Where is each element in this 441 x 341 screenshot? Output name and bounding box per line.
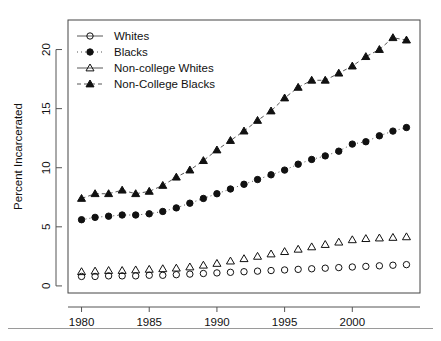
data-point — [240, 255, 248, 262]
legend-item-whites: Whites — [77, 30, 149, 42]
footer-divider — [8, 328, 433, 329]
data-point — [308, 76, 316, 83]
data-point — [187, 200, 193, 206]
data-point — [214, 191, 220, 197]
data-point — [241, 181, 247, 187]
data-point — [268, 267, 274, 273]
series-non-college-blacks — [78, 34, 411, 202]
data-point — [200, 270, 206, 276]
data-point — [227, 269, 233, 275]
data-point — [403, 261, 409, 267]
data-point — [200, 195, 206, 201]
data-point — [375, 234, 383, 241]
data-point — [363, 139, 369, 145]
data-point — [160, 272, 166, 278]
data-point — [240, 127, 248, 134]
legend-item-non-college-blacks: Non-College Blacks — [77, 78, 215, 90]
data-point — [199, 157, 207, 164]
data-point — [214, 270, 220, 276]
data-point — [322, 153, 328, 159]
data-point — [254, 176, 260, 182]
data-point — [348, 62, 356, 69]
data-point — [375, 46, 383, 53]
series-blacks — [78, 124, 409, 223]
data-point — [267, 250, 275, 257]
data-point — [390, 128, 396, 134]
data-point — [86, 80, 94, 87]
y-tick-label-0: 0 — [40, 283, 52, 289]
data-point — [335, 69, 343, 76]
data-point — [132, 273, 138, 279]
data-point — [403, 124, 409, 130]
data-point — [281, 167, 287, 173]
data-point — [172, 173, 180, 180]
data-point — [308, 156, 314, 162]
data-point — [362, 235, 370, 242]
data-point — [336, 148, 342, 154]
data-point — [145, 265, 153, 272]
plot-frame — [68, 20, 420, 293]
y-tick-label-10: 10 — [40, 161, 52, 174]
data-point — [145, 187, 153, 194]
series-whites — [78, 261, 409, 279]
data-point — [348, 236, 356, 243]
data-point — [187, 271, 193, 277]
data-point — [308, 266, 314, 272]
legend-label: Non-college Whites — [114, 62, 214, 74]
series-line — [82, 128, 407, 220]
data-point — [159, 181, 167, 188]
chart-canvas: 1980198519901995200005101520Percent Inca… — [0, 0, 441, 341]
data-point — [349, 141, 355, 147]
data-point — [173, 271, 179, 277]
data-point — [254, 116, 262, 123]
y-tick-label-5: 5 — [40, 224, 52, 230]
data-point — [173, 205, 179, 211]
y-tick-label-15: 15 — [40, 102, 52, 115]
data-point — [336, 264, 342, 270]
legend-label: Blacks — [114, 46, 148, 58]
data-point — [105, 213, 111, 219]
data-point — [227, 186, 233, 192]
data-point — [376, 263, 382, 269]
data-point — [119, 212, 125, 218]
data-point — [322, 265, 328, 271]
x-tick-label-1990: 1990 — [204, 316, 230, 328]
x-tick-label-2000: 2000 — [340, 316, 366, 328]
x-tick-label-1980: 1980 — [69, 316, 95, 328]
data-point — [376, 133, 382, 139]
x-tick-label-1995: 1995 — [272, 316, 298, 328]
data-point — [78, 217, 84, 223]
data-point — [308, 243, 316, 250]
data-point — [91, 190, 99, 197]
data-point — [92, 214, 98, 220]
data-point — [295, 161, 301, 167]
data-point — [254, 268, 260, 274]
x-tick-label-1985: 1985 — [136, 316, 162, 328]
y-axis-title: Percent Incarcerated — [12, 103, 24, 210]
data-point — [146, 211, 152, 217]
data-point — [213, 259, 221, 266]
data-point — [132, 266, 140, 273]
data-point — [281, 248, 289, 255]
data-point — [294, 245, 302, 252]
data-point — [146, 272, 152, 278]
data-point — [226, 137, 234, 144]
data-point — [402, 233, 410, 240]
data-point — [363, 263, 369, 269]
data-point — [199, 261, 207, 268]
data-point — [389, 34, 397, 41]
data-point — [321, 76, 329, 83]
data-point — [213, 146, 221, 153]
data-point — [186, 263, 194, 270]
data-point — [335, 238, 343, 245]
y-tick-label-20: 20 — [40, 43, 52, 56]
data-point — [281, 267, 287, 273]
data-point — [321, 241, 329, 248]
incarceration-chart-figure: 1980198519901995200005101520Percent Inca… — [0, 0, 441, 341]
data-point — [132, 212, 138, 218]
data-point — [349, 264, 355, 270]
legend-label: Non-College Blacks — [114, 78, 215, 90]
data-point — [159, 265, 167, 272]
data-point — [87, 49, 93, 55]
legend-item-blacks: Blacks — [77, 46, 148, 58]
